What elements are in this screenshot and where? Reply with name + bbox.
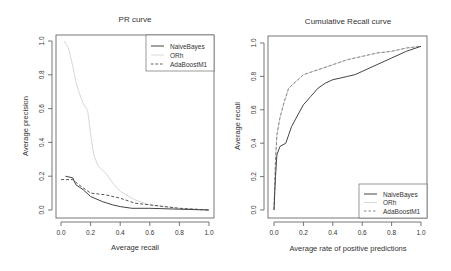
y-tick-label: 0.4 (38, 138, 45, 147)
y-tick-label: 0.0 (38, 205, 45, 214)
pr-curve-panel: PR curve 0.00.20.40.60.81.0 0.00.20.40.6… (21, 15, 214, 252)
x-tick-label: 1.0 (204, 229, 213, 236)
y-tick-label: 0.2 (38, 171, 45, 180)
legend: NaiveBayes ORh AdaBoostM1 (359, 184, 427, 218)
x-axis: 0.00.20.40.60.81.0 (269, 222, 425, 236)
series-adaboostm1 (61, 180, 209, 210)
x-tick-label: 0.8 (175, 229, 184, 236)
x-axis-label: Average rate of positive predictions (289, 244, 406, 253)
x-tick-label: 0.4 (328, 229, 337, 236)
legend-label-adaboostm1: AdaBoostM1 (383, 208, 421, 215)
chart-title: PR curve (119, 15, 152, 24)
y-tick-label: 0.8 (250, 72, 257, 81)
y-tick-label: 0.6 (38, 104, 45, 113)
y-axis-label: Average precision (21, 96, 30, 156)
x-tick-label: 0.4 (116, 229, 125, 236)
legend: NaiveBayes ORh AdaBoostM1 (146, 35, 214, 71)
x-tick-label: 0.6 (358, 229, 367, 236)
series-naivebayes (65, 176, 209, 210)
y-tick-label: 0.2 (250, 172, 257, 181)
legend-label-orh: ORh (170, 52, 184, 59)
x-tick-label: 0.8 (387, 229, 396, 236)
x-tick-label: 0.0 (269, 229, 278, 236)
cumulative-recall-panel: Cumulative Recall curve 0.00.20.40.60.81… (233, 17, 427, 253)
y-tick-label: 0.8 (38, 70, 45, 79)
x-axis: 0.00.20.40.60.81.0 (56, 222, 213, 236)
x-tick-label: 0.2 (86, 229, 95, 236)
y-tick-label: 0.0 (250, 205, 257, 214)
legend-label-adaboostm1: AdaBoostM1 (170, 61, 208, 68)
legend-label-naivebayes: NaiveBayes (170, 43, 205, 51)
y-axis: 0.00.20.40.60.81.0 (38, 36, 52, 214)
y-tick-label: 0.6 (250, 105, 257, 114)
legend-label-naivebayes: NaiveBayes (383, 191, 418, 199)
chart-title: Cumulative Recall curve (305, 17, 392, 26)
x-tick-label: 0.6 (145, 229, 154, 236)
y-tick-label: 1.0 (38, 36, 45, 45)
y-tick-label: 1.0 (250, 38, 257, 47)
x-tick-label: 0.0 (56, 229, 65, 236)
x-tick-label: 1.0 (416, 229, 425, 236)
y-tick-label: 0.4 (250, 138, 257, 147)
x-axis-label: Average recall (111, 243, 159, 252)
y-axis-label: Average recall (233, 102, 242, 150)
figure: PR curve 0.00.20.40.60.81.0 0.00.20.40.6… (0, 0, 451, 271)
x-tick-label: 0.2 (299, 229, 308, 236)
y-axis: 0.00.20.40.60.81.0 (250, 38, 264, 214)
legend-label-orh: ORh (383, 199, 397, 206)
